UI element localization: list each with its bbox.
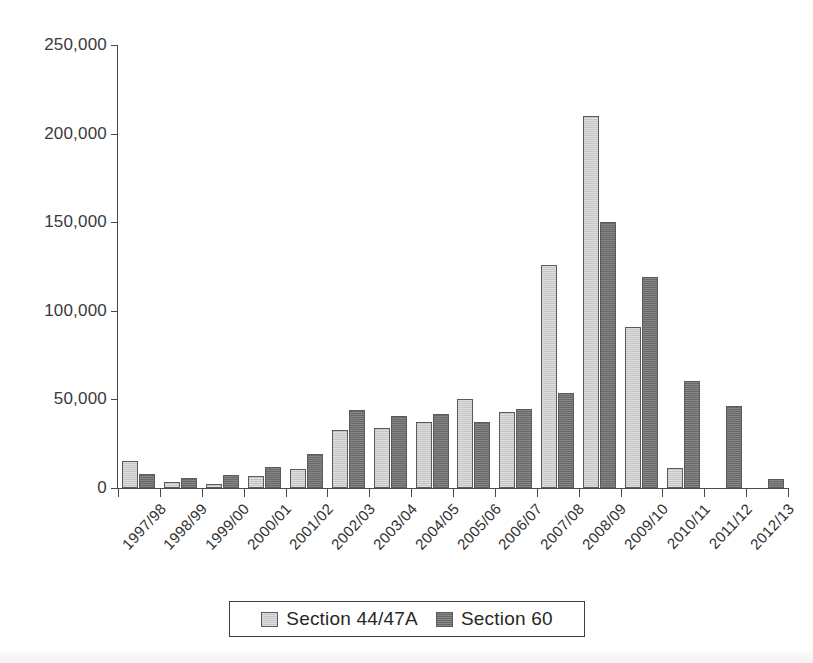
- x-axis-category-label: 2008/09: [579, 500, 630, 553]
- y-axis-tick: [111, 134, 118, 135]
- bar-2011-12-series-2: [726, 406, 742, 488]
- x-axis-tick: [411, 489, 412, 497]
- x-axis-tick: [495, 489, 496, 497]
- x-axis-tick: [286, 489, 287, 497]
- chart-legend: Section 44/47ASection 60: [229, 601, 585, 637]
- bar-2000-01-series-1: [248, 476, 264, 488]
- bar-2004-05-series-1: [416, 422, 432, 488]
- x-axis-tick: [788, 489, 789, 497]
- bar-2003-04-series-2: [391, 416, 407, 488]
- x-axis-tick: [704, 489, 705, 497]
- x-axis-category-label: 2001/02: [286, 500, 337, 553]
- legend-swatch-icon: [261, 612, 278, 627]
- x-axis-category-label: 2005/06: [453, 500, 504, 553]
- bar-2000-01-series-2: [265, 467, 281, 488]
- x-axis-category-label: 2009/10: [621, 500, 672, 553]
- x-axis-category-label: 2006/07: [495, 500, 546, 553]
- bar-2012-13-series-2: [768, 479, 784, 488]
- legend-entry-1[interactable]: Section 44/47A: [261, 608, 418, 630]
- x-axis-tick: [662, 489, 663, 497]
- x-axis-category-label: 2012/13: [746, 500, 797, 553]
- x-axis-tick: [160, 489, 161, 497]
- x-axis-tick: [369, 489, 370, 497]
- bar-1998-99-series-1: [164, 482, 180, 488]
- bar-2009-10-series-1: [625, 327, 641, 488]
- x-axis-category-label: 2002/03: [327, 500, 378, 553]
- bar-2009-10-series-2: [642, 277, 658, 488]
- legend-label: Section 60: [461, 608, 553, 630]
- bar-2001-02-series-2: [307, 454, 323, 488]
- scan-artifact: [0, 648, 813, 663]
- plot-area: [118, 45, 788, 488]
- bar-1999-00-series-2: [223, 475, 239, 488]
- bar-1999-00-series-1: [206, 484, 222, 488]
- bar-1997-98-series-1: [122, 461, 138, 488]
- y-axis-tick: [111, 311, 118, 312]
- bar-2004-05-series-2: [433, 414, 449, 488]
- legend-label: Section 44/47A: [286, 608, 418, 630]
- y-axis-tick: [111, 222, 118, 223]
- y-axis-tick-label: 100,000: [44, 301, 107, 321]
- y-axis-tick: [111, 45, 118, 46]
- x-axis-category-label: 2000/01: [244, 500, 295, 553]
- y-axis-tick-label: 200,000: [44, 124, 107, 144]
- x-axis-category-label: 1997/98: [118, 500, 169, 553]
- x-axis-tick: [202, 489, 203, 497]
- legend-swatch-icon: [436, 612, 453, 627]
- x-axis-category-label: 2011/12: [705, 500, 755, 552]
- x-axis-category-label: 1999/00: [202, 500, 253, 553]
- x-axis-tick: [244, 489, 245, 497]
- bar-2003-04-series-1: [374, 428, 390, 488]
- x-axis-category-label: 1998/99: [160, 500, 211, 553]
- y-axis-tick-label: 0: [97, 478, 107, 498]
- bar-2006-07-series-2: [516, 409, 532, 488]
- bar-2008-09-series-2: [600, 222, 616, 488]
- bar-2002-03-series-1: [332, 430, 348, 488]
- x-axis-tick: [118, 489, 119, 497]
- x-axis-tick: [537, 489, 538, 497]
- bar-2010-11-series-2: [684, 381, 700, 488]
- x-axis-category-label: 2010/11: [663, 500, 713, 552]
- bar-2008-09-series-1: [583, 116, 599, 488]
- bar-2005-06-series-1: [457, 399, 473, 488]
- bar-chart: 250,000200,000150,000100,00050,0000 1997…: [0, 0, 813, 663]
- y-axis-tick-label: 150,000: [44, 212, 107, 232]
- bar-2002-03-series-2: [349, 410, 365, 488]
- x-axis-category-label: 2004/05: [411, 500, 462, 553]
- bar-2001-02-series-1: [290, 469, 306, 488]
- x-axis-tick: [621, 489, 622, 497]
- x-axis-category-label: 2003/04: [369, 500, 420, 553]
- y-axis-tick: [111, 399, 118, 400]
- x-axis-tick: [327, 489, 328, 497]
- y-axis-tick: [111, 488, 118, 489]
- x-axis-tick: [579, 489, 580, 497]
- x-axis-tick: [453, 489, 454, 497]
- legend-entry-2[interactable]: Section 60: [436, 608, 553, 630]
- bar-1997-98-series-2: [139, 474, 155, 488]
- bar-2007-08-series-1: [541, 265, 557, 488]
- y-axis-tick-label: 50,000: [54, 389, 107, 409]
- x-axis-category-label: 2007/08: [537, 500, 588, 553]
- bar-2007-08-series-2: [558, 393, 574, 488]
- bar-2006-07-series-1: [499, 412, 515, 488]
- y-axis-tick-label: 250,000: [44, 35, 107, 55]
- bar-1998-99-series-2: [181, 478, 197, 488]
- bar-2005-06-series-2: [474, 422, 490, 488]
- bar-2010-11-series-1: [667, 468, 683, 488]
- x-axis-tick: [746, 489, 747, 497]
